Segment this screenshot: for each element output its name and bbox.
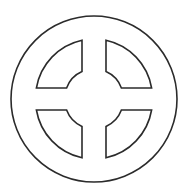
outer-circle <box>11 16 177 182</box>
wheel-cross-symbol <box>0 0 187 194</box>
